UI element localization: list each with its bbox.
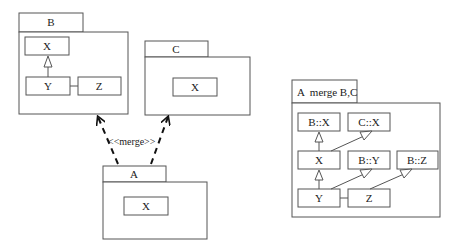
class-merged-by-label: B::Y xyxy=(358,154,379,166)
merge-stereotype-label: <<merge>> xyxy=(108,136,156,147)
class-c-x-label: X xyxy=(191,81,199,93)
package-c: C X xyxy=(145,41,250,115)
merge-dependencies: <<merge>> xyxy=(98,117,168,164)
package-c-name: C xyxy=(172,43,179,55)
class-merged-bx-label: B::X xyxy=(308,116,329,128)
class-merged-y-label: Y xyxy=(315,192,323,204)
class-merged-x-label: X xyxy=(315,154,323,166)
package-merge-diagram: B X Y Z C X A X <<merge>> A m xyxy=(0,0,459,249)
class-b-z-label: Z xyxy=(96,80,103,92)
class-b-y-label: Y xyxy=(44,80,52,92)
package-a: A X xyxy=(103,166,207,239)
class-merged-cx-label: C::X xyxy=(358,116,379,128)
class-b-x-label: X xyxy=(43,40,51,52)
class-merged-z-label: Z xyxy=(366,192,373,204)
package-a-name: A xyxy=(130,168,138,180)
package-b-name: B xyxy=(47,16,54,28)
package-merged-name: A merge B,C xyxy=(297,86,357,98)
class-merged-bz-label: B::Z xyxy=(407,154,427,166)
package-merged-result: A merge B,C B::X C::X X B::Y B::Z Y Z xyxy=(292,80,440,217)
package-b: B X Y Z xyxy=(19,13,128,114)
class-a-x-label: X xyxy=(142,200,150,212)
